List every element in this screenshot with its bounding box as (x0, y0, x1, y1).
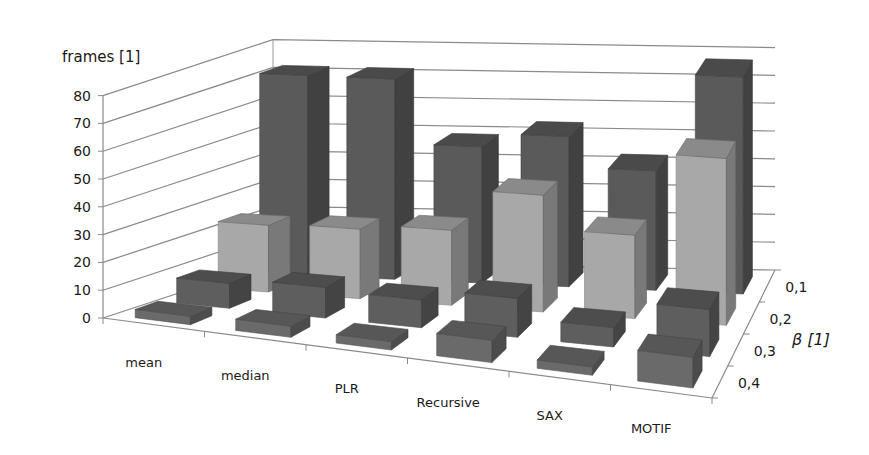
bar (561, 308, 626, 348)
bar-chart-3d: 01020304050607080meanmedianPLRRecursiveS… (0, 0, 869, 455)
bar (177, 270, 251, 308)
gridline (103, 40, 775, 96)
bar (369, 283, 438, 328)
x-tick-label: MOTIF (631, 421, 672, 436)
x-tick-label: mean (125, 355, 162, 370)
z-tick-label: 0,3 (754, 343, 776, 359)
y-tick-label: 0 (82, 310, 91, 326)
bar (437, 320, 506, 362)
z-tick-label: 0,2 (769, 311, 791, 327)
z-tick-label: 0,4 (738, 375, 760, 391)
y-tick-label: 50 (73, 171, 91, 187)
bar (336, 323, 408, 350)
y-tick-label: 20 (73, 254, 91, 270)
y-tick-label: 10 (73, 282, 91, 298)
bar (537, 345, 604, 375)
y-tick-label: 70 (73, 115, 91, 131)
y-axis-title: frames [1] (62, 48, 140, 66)
x-tick-label: median (221, 368, 270, 383)
z-axis-title: β [1] (791, 330, 830, 349)
gridline (103, 67, 775, 123)
y-tick-label: 80 (73, 88, 91, 104)
bar (638, 334, 702, 388)
bar (585, 217, 647, 319)
x-tick-label: Recursive (417, 395, 480, 410)
x-tick-label: SAX (537, 408, 563, 423)
y-tick-label: 40 (73, 199, 91, 215)
bar (273, 272, 345, 318)
bars (135, 59, 752, 388)
y-tick-label: 30 (73, 227, 91, 243)
z-tick-label: 0,1 (785, 279, 807, 295)
x-tick-label: PLR (335, 381, 359, 396)
y-tick-label: 60 (73, 143, 91, 159)
